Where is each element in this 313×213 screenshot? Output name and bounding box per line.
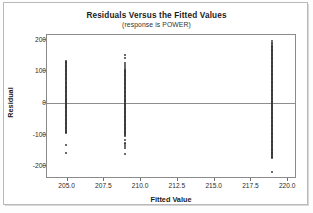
x-axis-tick-label: 217.5 xyxy=(230,182,270,189)
x-axis-tick-mark xyxy=(140,178,141,181)
data-point-outlier xyxy=(271,171,273,173)
x-axis-tick-label: 205.0 xyxy=(47,182,87,189)
data-point-outlier xyxy=(124,139,126,141)
y-axis-tick-label: -200 xyxy=(6,162,46,169)
data-point-outlier xyxy=(271,42,273,44)
x-axis-tick-label: 210.0 xyxy=(120,182,160,189)
y-axis-title: Residual xyxy=(6,73,15,133)
x-axis-tick-label: 207.5 xyxy=(83,182,123,189)
chart-screenshot: Residuals Versus the Fitted Values (resp… xyxy=(0,0,313,213)
data-point xyxy=(271,156,273,158)
data-point-outlier xyxy=(65,152,67,154)
x-axis-tick-mark xyxy=(287,178,288,181)
x-axis-title: Fitted Value xyxy=(46,195,296,204)
x-axis-tick-mark xyxy=(177,178,178,181)
zero-reference-line xyxy=(47,103,295,104)
x-axis-tick-mark xyxy=(103,178,104,181)
data-point xyxy=(65,132,67,134)
x-axis-tick-mark xyxy=(67,178,68,181)
data-point-outlier xyxy=(124,147,126,149)
x-axis-tick-label: 215.0 xyxy=(194,182,234,189)
x-axis-tick-mark xyxy=(250,178,251,181)
plot-area xyxy=(47,35,295,177)
data-point-outlier xyxy=(65,144,67,146)
plot-frame xyxy=(46,34,296,178)
x-axis-tick-mark xyxy=(214,178,215,181)
data-point xyxy=(124,135,126,137)
x-axis-tick-label: 220.0 xyxy=(267,182,307,189)
data-point-outlier xyxy=(124,153,126,155)
data-point-outlier xyxy=(124,57,126,59)
x-axis-tick-label: 212.5 xyxy=(157,182,197,189)
y-axis-tick-label: 200 xyxy=(6,35,46,42)
